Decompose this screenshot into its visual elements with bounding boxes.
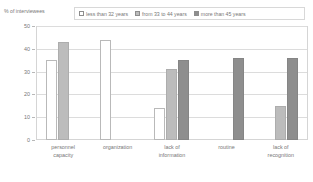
bar (178, 60, 189, 140)
y-tick-label-50: 50 (0, 23, 30, 29)
bar (100, 40, 111, 140)
x-axis-label: personnelcapacity (36, 144, 90, 159)
y-tick-mark-30 (32, 72, 35, 73)
y-tick-mark-20 (32, 94, 35, 95)
bar (58, 42, 69, 140)
y-tick-mark-10 (32, 117, 35, 118)
legend-swatch-series-0 (79, 11, 84, 16)
x-axis-label-line: routine (199, 144, 253, 152)
y-tick-label-40: 40 (0, 46, 30, 52)
y-tick-label-0: 0 (0, 137, 30, 143)
y-tick-label-10: 10 (0, 114, 30, 120)
bars-layer (36, 26, 308, 140)
bar-group (199, 26, 253, 140)
legend-item-more-than-45: more than 45 years (194, 11, 246, 17)
y-tick-label-20: 20 (0, 91, 30, 97)
legend-swatch-series-2 (194, 11, 199, 16)
x-axis-labels: personnelcapacityorganizationlack ofinfo… (36, 144, 308, 180)
bar-group (145, 26, 199, 140)
x-axis-label-line: recognition (254, 152, 308, 160)
y-tick-mark-50 (32, 26, 35, 27)
legend-swatch-series-1 (135, 11, 140, 16)
legend-label-series-0: less than 32 years (86, 11, 128, 17)
legend-label-series-1: from 33 to 44 years (142, 11, 187, 17)
chart-legend: less than 32 years from 33 to 44 years m… (74, 7, 305, 20)
legend-item-less-than-32: less than 32 years (79, 11, 128, 17)
bar (154, 108, 165, 140)
bar (275, 106, 286, 140)
bar (287, 58, 298, 140)
bar-group (254, 26, 308, 140)
x-axis-label-line: information (145, 152, 199, 160)
bar (166, 69, 177, 140)
y-tick-label-30: 30 (0, 69, 30, 75)
bar (233, 58, 244, 140)
bar (46, 60, 57, 140)
x-axis-label: routine (199, 144, 253, 152)
x-axis-label-line: capacity (36, 152, 90, 160)
x-axis-label: lack ofrecognition (254, 144, 308, 159)
bar-group (36, 26, 90, 140)
legend-label-series-2: more than 45 years (201, 11, 246, 17)
y-axis-title: % of interviewees (4, 8, 45, 15)
bar-group (90, 26, 144, 140)
legend-item-33-to-44: from 33 to 44 years (135, 11, 187, 17)
bar-chart: % of interviewees less than 32 years fro… (0, 0, 313, 182)
y-tick-mark-0 (32, 140, 35, 141)
x-axis-label: lack ofinformation (145, 144, 199, 159)
x-axis-label-line: lack of (145, 144, 199, 152)
x-axis-label: organization (90, 144, 144, 152)
x-axis-label-line: personnel (36, 144, 90, 152)
y-tick-mark-40 (32, 49, 35, 50)
x-axis-label-line: lack of (254, 144, 308, 152)
x-axis-label-line: organization (90, 144, 144, 152)
